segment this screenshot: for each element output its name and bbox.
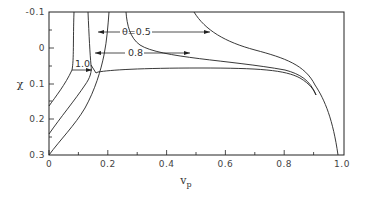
curve-theta-0.5-right: [194, 12, 338, 155]
arrowhead-icon: [184, 51, 190, 55]
curve-theta-0.8-right: [126, 12, 316, 95]
y-axis-label: χ: [17, 78, 24, 91]
y-tick-label: 0.1: [29, 79, 45, 89]
x-axis-label: vp: [179, 174, 191, 189]
x-tick-label: 1.0: [334, 159, 350, 169]
y-tick-label: 0.2: [29, 114, 45, 124]
arrowhead-icon: [95, 51, 101, 55]
y-tick-label: -0.1: [25, 7, 45, 17]
curve-connector: [91, 65, 98, 73]
x-tick-label: 0: [46, 159, 52, 169]
y-tick-label: 0.3: [29, 150, 45, 160]
x-tick-label: 0.4: [159, 159, 175, 169]
x-tick-label: 0.8: [276, 159, 292, 169]
arrowhead-icon: [204, 30, 210, 34]
chart: 0 0.2 0.4 0.6 0.8 1.0 -0.1 0 0.1 0.2 0.3…: [0, 0, 365, 202]
y-tick-label: 0: [39, 43, 45, 53]
annotation-theta-0.5: θ=0.5: [122, 26, 151, 37]
arrowhead-icon: [98, 30, 104, 34]
x-ticks: [49, 150, 314, 155]
plot-frame: [49, 12, 344, 155]
annotation-theta-1.0: 1.0: [75, 58, 90, 69]
curve-theta-1.0-left: [49, 12, 74, 106]
x-tick-label: 0.6: [217, 159, 233, 169]
annotation-theta-0.8: 0.8: [128, 47, 143, 58]
x-tick-label: 0.2: [100, 159, 116, 169]
y-ticks: [49, 30, 54, 137]
curve-theta-0.5-left: [49, 12, 109, 155]
curve-theta-1.0-right: [98, 68, 316, 95]
